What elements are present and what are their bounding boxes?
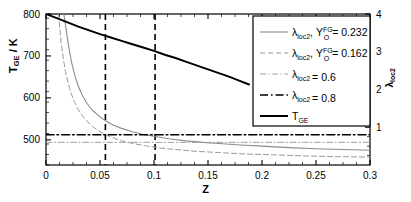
y-left-subscript: GE — [12, 55, 21, 66]
y-right-tick-label: 1 — [376, 122, 382, 133]
x-tick-label: 0.3 — [363, 170, 377, 181]
y-axis-right-tick-labels: 1234 — [376, 9, 382, 133]
x-axis-tick-labels: 00.050.10.150.20.250.3 — [43, 170, 377, 181]
x-tick-label: 0.05 — [90, 170, 110, 181]
y-right-subscript: loc2 — [389, 68, 396, 82]
y-left-tick-label: 700 — [23, 50, 40, 61]
y-right-tick-label: 3 — [376, 46, 382, 57]
y-left-unit: / K — [7, 38, 19, 52]
x-tick-label: 0.15 — [198, 170, 218, 181]
chart-svg: 00.050.10.150.20.250.3 500600700800 1234… — [0, 0, 411, 202]
y-right-tick-label: 4 — [376, 9, 382, 20]
figure-container: 00.050.10.150.20.250.3 500600700800 1234… — [0, 0, 411, 202]
y-left-tick-label: 600 — [23, 92, 40, 103]
x-tick-label: 0.1 — [147, 170, 161, 181]
x-tick-label: 0 — [43, 170, 49, 181]
y-right-symbol: λ — [384, 82, 395, 88]
y-right-tick-label: 2 — [376, 84, 382, 95]
y-axis-left-tick-labels: 500600700800 — [23, 9, 40, 146]
y-left-symbol: T — [7, 66, 19, 73]
x-tick-label: 0.25 — [306, 170, 326, 181]
x-tick-label: 0.2 — [255, 170, 269, 181]
x-axis-label: Z — [0, 183, 411, 195]
y-axis-left-label: TGE / K — [7, 53, 21, 73]
y-left-tick-label: 500 — [23, 134, 40, 145]
y-axis-right-label: λloc2 — [384, 68, 396, 88]
y-left-tick-label: 800 — [23, 9, 40, 20]
